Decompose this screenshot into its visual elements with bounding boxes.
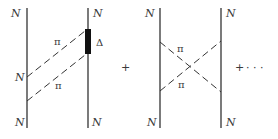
label-n-bottom-left: N xyxy=(14,116,25,129)
pion-line-lower xyxy=(27,55,85,101)
label-pion-upper-2: π xyxy=(177,43,184,54)
label-pion-upper: π xyxy=(54,36,61,47)
label-n-top-left: N xyxy=(10,7,21,20)
plus-operator-2: + xyxy=(235,61,244,74)
label-n-mid-left: N xyxy=(14,71,25,84)
pion-line-cross-down xyxy=(160,42,221,92)
label-pion-lower-2: π xyxy=(178,79,185,90)
diagram-crossed-box: N N N N π π xyxy=(144,7,236,129)
pion-line-cross-up xyxy=(160,41,221,91)
ellipsis: · · · xyxy=(246,61,263,74)
label-n-bottom-right: N xyxy=(91,116,102,129)
label-n-top-left-2: N xyxy=(144,7,155,20)
label-delta: Δ xyxy=(96,37,103,48)
feynman-diagram-canvas: N N N N N π π Δ + N N N N π π + · · · xyxy=(0,0,278,139)
label-n-top-right: N xyxy=(92,7,103,20)
diagram-delta-box: N N N N N π π Δ xyxy=(10,7,103,129)
label-n-bottom-left-2: N xyxy=(146,116,157,129)
label-n-bottom-right-2: N xyxy=(225,116,236,129)
delta-resonance-box xyxy=(85,29,91,54)
label-pion-lower: π xyxy=(55,80,62,91)
plus-operator-1: + xyxy=(121,61,130,74)
label-n-top-right-2: N xyxy=(225,7,236,20)
